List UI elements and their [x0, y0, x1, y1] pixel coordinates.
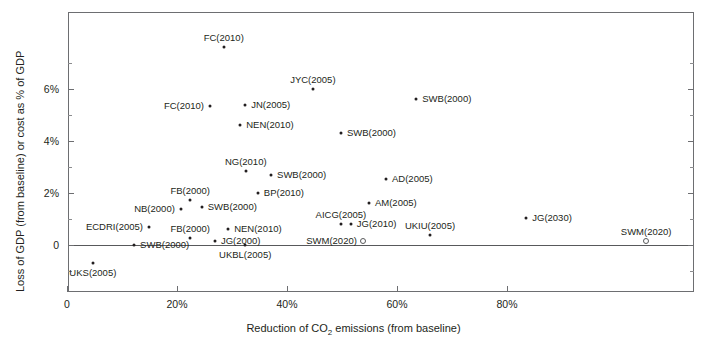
x-tick-label: 60%	[386, 298, 407, 310]
data-point-marker[interactable]	[222, 46, 225, 49]
data-point-label: SWB(2000)	[208, 203, 257, 213]
data-point-label: SWM(2020)	[306, 236, 357, 246]
x-axis-tick	[507, 286, 508, 292]
data-point-label: SWB(2000)	[277, 170, 326, 180]
y-tick-label: 2%	[44, 187, 59, 199]
data-point-label: SWB(2000)	[140, 240, 189, 250]
data-point-label: FC(2010)	[204, 33, 244, 43]
data-point-label: NEN(2010)	[246, 121, 294, 131]
x-tick-label: 0	[64, 298, 70, 310]
data-point-label: ECDRI(2005)	[86, 222, 143, 232]
data-point-label: AM(2005)	[375, 199, 417, 209]
scatter-chart-figure: Loss of GDP (from baseline) or cost as %…	[0, 0, 707, 346]
y-axis-tick	[688, 245, 694, 246]
x-tick-label: 40%	[276, 298, 297, 310]
data-point-label: SWB(2000)	[347, 128, 396, 138]
y-axis-minor-tick	[68, 115, 72, 116]
x-axis-tick	[67, 286, 68, 292]
data-point-label: NG(2010)	[225, 156, 267, 166]
y-axis-minor-tick	[68, 63, 72, 64]
data-point-marker[interactable]	[91, 262, 94, 265]
data-point-marker[interactable]	[311, 88, 314, 91]
y-axis-minor-tick	[690, 167, 694, 168]
data-point-marker[interactable]	[239, 124, 242, 127]
y-tick-label: 4%	[44, 135, 59, 147]
data-point-label: JG(2010)	[357, 219, 397, 229]
data-point-marker[interactable]	[643, 238, 649, 244]
data-point-label: FB(2000)	[170, 185, 210, 195]
data-point-marker[interactable]	[133, 244, 136, 247]
data-point-label: FB(2000)	[170, 223, 210, 233]
data-point-label: UKBL(2005)	[219, 250, 271, 260]
data-point-marker[interactable]	[147, 225, 150, 228]
data-point-marker[interactable]	[367, 202, 370, 205]
y-axis-minor-tick	[690, 271, 694, 272]
y-tick-label: 6%	[44, 83, 59, 95]
data-point-label: JYC(2005)	[290, 75, 335, 85]
data-point-label: JG(2000)	[221, 236, 261, 246]
data-point-marker[interactable]	[189, 198, 192, 201]
data-point-marker[interactable]	[244, 103, 247, 106]
x-axis-tick	[397, 286, 398, 292]
y-axis-minor-tick	[690, 63, 694, 64]
x-axis-label-pre: Reduction of CO	[246, 322, 327, 334]
data-point-label: FC(2010)	[164, 101, 204, 111]
data-point-marker[interactable]	[256, 192, 259, 195]
y-axis-tick	[68, 141, 74, 142]
y-axis-tick	[68, 245, 74, 246]
data-point-label: SWM(2020)	[621, 227, 672, 237]
y-axis-tick	[688, 193, 694, 194]
data-point-marker[interactable]	[200, 206, 203, 209]
y-axis-minor-tick	[68, 219, 72, 220]
data-point-label: SWB(2000)	[422, 95, 471, 105]
y-axis-tick	[68, 89, 74, 90]
y-axis-tick	[68, 193, 74, 194]
x-axis-label-post: emissions (from baseline)	[332, 322, 460, 334]
data-point-marker[interactable]	[189, 236, 192, 239]
data-point-label: NB(2000)	[134, 204, 175, 214]
data-point-label: NEN(2010)	[234, 225, 282, 235]
x-tick-label: 20%	[166, 298, 187, 310]
data-point-label: AD(2005)	[392, 174, 433, 184]
data-point-marker[interactable]	[339, 132, 342, 135]
y-axis-minor-tick	[68, 167, 72, 168]
data-point-label: JN(2005)	[251, 100, 290, 110]
x-axis-tick	[287, 286, 288, 292]
data-point-marker[interactable]	[209, 104, 212, 107]
data-point-marker[interactable]	[349, 223, 352, 226]
y-axis-tick	[688, 89, 694, 90]
data-point-label: UKS(2005)	[69, 268, 116, 278]
x-axis-label: Reduction of CO2 emissions (from baselin…	[0, 322, 707, 337]
data-point-marker[interactable]	[429, 233, 432, 236]
y-axis-label: Loss of GDP (from baseline) or cost as %…	[14, 51, 26, 292]
data-point-marker[interactable]	[244, 244, 247, 247]
y-axis-minor-tick	[690, 219, 694, 220]
x-axis-tick	[177, 286, 178, 292]
data-point-marker[interactable]	[360, 238, 366, 244]
y-tick-label: 0	[53, 239, 59, 251]
x-tick-label: 80%	[496, 298, 517, 310]
y-axis-minor-tick	[690, 115, 694, 116]
y-axis-tick	[688, 141, 694, 142]
data-point-marker[interactable]	[227, 228, 230, 231]
data-point-label: BP(2010)	[264, 188, 304, 198]
data-point-marker[interactable]	[339, 223, 342, 226]
data-point-marker[interactable]	[525, 216, 528, 219]
data-point-label: JG(2030)	[532, 213, 572, 223]
data-point-marker[interactable]	[244, 169, 247, 172]
data-point-marker[interactable]	[385, 177, 388, 180]
data-point-label: UKIU(2005)	[405, 220, 455, 230]
data-point-marker[interactable]	[179, 207, 182, 210]
data-point-marker[interactable]	[270, 173, 273, 176]
data-point-marker[interactable]	[213, 239, 216, 242]
data-point-marker[interactable]	[415, 98, 418, 101]
